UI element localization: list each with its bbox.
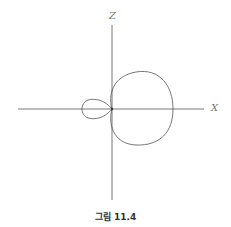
origin-point (111, 108, 113, 110)
figure-caption: 그림 11.4 (0, 210, 231, 223)
large-lobe (111, 71, 173, 145)
polar-diagram (0, 0, 231, 227)
x-axis-label: X (211, 102, 218, 113)
z-axis-label: Z (109, 10, 116, 21)
